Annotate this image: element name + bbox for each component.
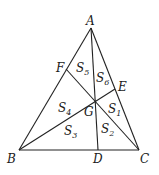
label-f: F <box>55 61 65 75</box>
region-s4: S4 <box>58 101 71 117</box>
label-c: C <box>140 152 149 166</box>
region-s1: S1 <box>108 102 121 118</box>
side-ab <box>19 28 91 150</box>
region-s6: S6 <box>96 71 109 87</box>
region-s3: S3 <box>64 124 77 140</box>
region-s2: S2 <box>101 122 114 138</box>
cevian-ad <box>91 28 98 150</box>
label-b: B <box>6 152 16 166</box>
label-e: E <box>117 80 127 94</box>
label-g: G <box>84 105 94 119</box>
triangle-diagram: A B C D E F G S1 S2 S3 S4 S5 S6 <box>0 0 159 175</box>
label-a: A <box>85 14 95 28</box>
label-d: D <box>92 152 103 166</box>
region-s5: S5 <box>76 61 89 77</box>
cevian-be <box>19 89 115 150</box>
